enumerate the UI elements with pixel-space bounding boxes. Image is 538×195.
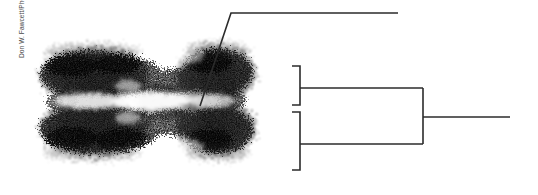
chromosome-figure: Don W. Fawcett/Photo Researchers/Getty I… [0,0,538,195]
lower-chromatid-bracket [292,112,300,170]
centromere-leader-line [200,13,398,106]
upper-chromatid-bracket [292,66,300,105]
annotation-overlay [0,0,538,195]
